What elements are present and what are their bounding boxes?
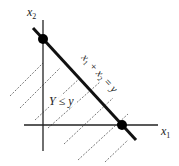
- y-intercept-point: [38, 34, 48, 44]
- x2-axis-label: x2: [26, 5, 36, 21]
- x-intercept-point: [117, 120, 127, 130]
- constraint-line-label: x1 + x2 = y: [77, 50, 121, 96]
- region-label: Y ≤ y: [49, 94, 74, 108]
- x1-axis-label: x1: [160, 124, 170, 140]
- region-diagram: x2 x1 x1 + x2 = y Y ≤ y: [0, 0, 179, 166]
